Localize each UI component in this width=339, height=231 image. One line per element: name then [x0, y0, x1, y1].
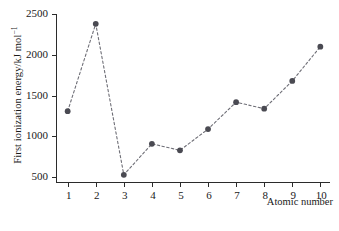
y-axis-tick-label: 2500 [26, 7, 48, 19]
data-point [93, 21, 99, 27]
x-axis-tick: 5 [180, 182, 181, 187]
ionization-energy-chart: First ionization energy/kJ mol−1 5001000… [0, 0, 339, 231]
x-axis-tick: 6 [208, 182, 209, 187]
y-axis-tick-label: 1000 [26, 129, 48, 141]
y-axis-tick-label: 1500 [26, 89, 48, 101]
x-axis-tick: 4 [152, 182, 153, 187]
y-axis-title-superscript: −1 [10, 26, 19, 34]
data-point [317, 44, 323, 50]
data-point [65, 108, 71, 114]
data-layer [57, 14, 331, 183]
x-axis-tick: 8 [264, 182, 265, 187]
x-axis-tick: 2 [96, 182, 97, 187]
series-markers [65, 21, 323, 178]
x-axis-tick: 1 [68, 182, 69, 187]
data-point [177, 147, 183, 153]
data-point [149, 141, 155, 147]
data-point [233, 99, 239, 105]
y-axis-tick: 1500 [52, 96, 57, 97]
y-axis-tick: 2500 [52, 14, 57, 15]
y-axis-tick: 500 [52, 177, 57, 178]
y-axis-tick: 2000 [52, 55, 57, 56]
x-axis-tick: 9 [292, 182, 293, 187]
x-axis-tick: 3 [124, 182, 125, 187]
x-axis-title: Atomic number [0, 196, 333, 207]
x-axis-tick: 10 [320, 182, 321, 187]
data-point [205, 126, 211, 132]
x-axis-tick: 7 [236, 182, 237, 187]
y-axis-title-text: First ionization energy/kJ mol [12, 35, 23, 164]
data-point [289, 78, 295, 84]
plot-area: 500100015002000250012345678910 [56, 14, 330, 183]
y-axis-tick-label: 2000 [26, 48, 48, 60]
data-point [121, 172, 127, 178]
data-point [261, 106, 267, 112]
y-axis-tick-label: 500 [32, 170, 49, 182]
series-line-first-ionization-energy [68, 24, 321, 175]
y-axis-tick: 1000 [52, 136, 57, 137]
